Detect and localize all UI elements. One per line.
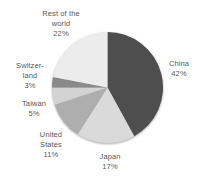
label-china: China 42% bbox=[169, 59, 189, 79]
label-china-pct: 42% bbox=[169, 69, 189, 79]
label-switzerland: Switzer- land 3% bbox=[16, 61, 44, 91]
label-rest-of-world: Rest of the world 22% bbox=[42, 9, 79, 39]
label-rest-of-world-line2: world bbox=[42, 19, 79, 29]
label-japan-pct: 17% bbox=[100, 162, 121, 172]
label-switzerland-line1: Switzer- bbox=[16, 61, 44, 71]
label-taiwan: Taiwan 5% bbox=[22, 99, 46, 119]
label-japan: Japan 17% bbox=[100, 152, 121, 172]
label-rest-of-world-pct: 22% bbox=[42, 29, 79, 39]
label-switzerland-pct: 3% bbox=[16, 81, 44, 91]
label-united-states-line2: States bbox=[40, 140, 62, 150]
label-switzerland-line2: land bbox=[16, 71, 44, 81]
label-united-states-line1: United bbox=[40, 130, 62, 140]
label-taiwan-pct: 5% bbox=[22, 109, 46, 119]
label-rest-of-world-line1: Rest of the bbox=[42, 9, 79, 19]
pie-chart-figure: Rest of the world 22% China 42% Switzer-… bbox=[0, 0, 199, 187]
label-united-states: United States 11% bbox=[40, 130, 62, 160]
pie-chart bbox=[52, 32, 163, 143]
label-taiwan-line1: Taiwan bbox=[22, 99, 46, 109]
label-japan-line1: Japan bbox=[100, 152, 121, 162]
label-united-states-pct: 11% bbox=[40, 150, 62, 160]
label-china-line1: China bbox=[169, 59, 189, 69]
